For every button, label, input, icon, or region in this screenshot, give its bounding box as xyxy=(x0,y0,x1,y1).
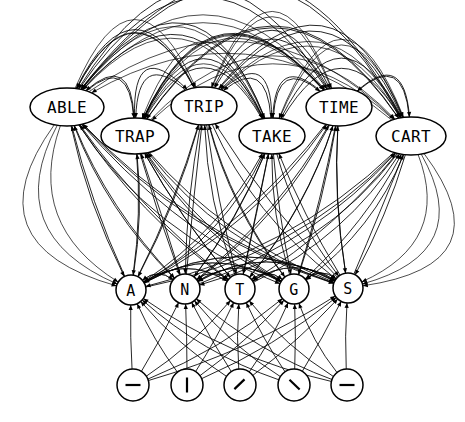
graph-edge xyxy=(362,155,427,282)
arrowhead xyxy=(299,303,303,308)
graph-edge xyxy=(23,125,117,286)
graph-edge xyxy=(295,304,296,369)
arrowhead xyxy=(129,305,133,310)
letter-node-s[interactable]: S xyxy=(333,273,363,303)
arrowhead xyxy=(184,304,188,309)
arrowhead xyxy=(279,154,283,159)
arrowhead xyxy=(329,126,333,131)
graph-edge xyxy=(238,304,239,369)
glyph-node-dash[interactable] xyxy=(331,369,363,401)
graph-edge xyxy=(354,155,404,275)
word-node-take[interactable]: TAKE xyxy=(239,118,305,154)
graph-edge xyxy=(299,303,337,372)
graph-edge xyxy=(199,154,397,285)
arrowhead xyxy=(195,125,199,130)
word-node-cart[interactable]: CART xyxy=(376,117,446,155)
arrowhead xyxy=(141,154,145,159)
graph-edge xyxy=(346,303,347,369)
word-node-trap[interactable]: TRAP xyxy=(101,118,169,154)
letter-node-n[interactable]: N xyxy=(170,274,200,304)
node-label: CART xyxy=(391,127,431,146)
graph-edge xyxy=(192,302,232,371)
arrowhead xyxy=(293,304,297,309)
node-label: ABLE xyxy=(47,98,87,117)
glyph-node-backslash[interactable] xyxy=(278,369,310,401)
graph-edge xyxy=(143,153,262,281)
glyph-node-dash[interactable] xyxy=(117,369,149,401)
graph-canvas: ABLETRAPTRIPTAKETIMECARTANTGS xyxy=(0,0,465,422)
word-node-trip[interactable]: TRIP xyxy=(171,87,237,125)
node-label: TRIP xyxy=(184,97,224,116)
node-label: N xyxy=(180,281,189,299)
arrowhead xyxy=(266,154,270,159)
letter-node-a[interactable]: A xyxy=(116,275,146,305)
graph-edge xyxy=(141,303,178,372)
node-label: TRAP xyxy=(115,127,155,146)
arrowhead xyxy=(407,112,411,117)
graph-edge xyxy=(249,301,333,377)
arrowhead xyxy=(74,126,78,131)
arrowhead xyxy=(135,154,139,159)
word-node-able[interactable]: ABLE xyxy=(30,88,104,126)
edge-layer xyxy=(23,0,454,381)
arrowhead xyxy=(176,270,180,275)
letter-node-t[interactable]: T xyxy=(225,274,255,304)
arrowhead xyxy=(203,125,207,130)
graph-edge xyxy=(79,0,327,89)
graph-edge xyxy=(131,305,132,369)
arrowhead xyxy=(215,124,219,129)
node-label: A xyxy=(126,282,135,300)
graph-figure: ABLETRAPTRIPTAKETIMECARTANTGS xyxy=(0,0,465,422)
glyph-node-vertical[interactable] xyxy=(171,369,203,401)
graph-edge xyxy=(306,155,404,280)
graph-edge xyxy=(146,301,230,377)
graph-edge xyxy=(186,304,187,369)
node-label: G xyxy=(289,281,298,299)
letter-node-g[interactable]: G xyxy=(279,274,309,304)
node-label: TAKE xyxy=(252,127,292,146)
graph-edge xyxy=(137,304,177,373)
node-label: TIME xyxy=(319,98,359,117)
arrowhead xyxy=(215,83,219,88)
graph-edge xyxy=(302,301,341,371)
graph-edge xyxy=(246,303,285,372)
word-node-time[interactable]: TIME xyxy=(306,88,372,126)
node-label: T xyxy=(235,281,244,299)
glyph-node-slash[interactable] xyxy=(224,369,256,401)
graph-edge xyxy=(141,154,180,275)
node-label: S xyxy=(343,280,352,298)
